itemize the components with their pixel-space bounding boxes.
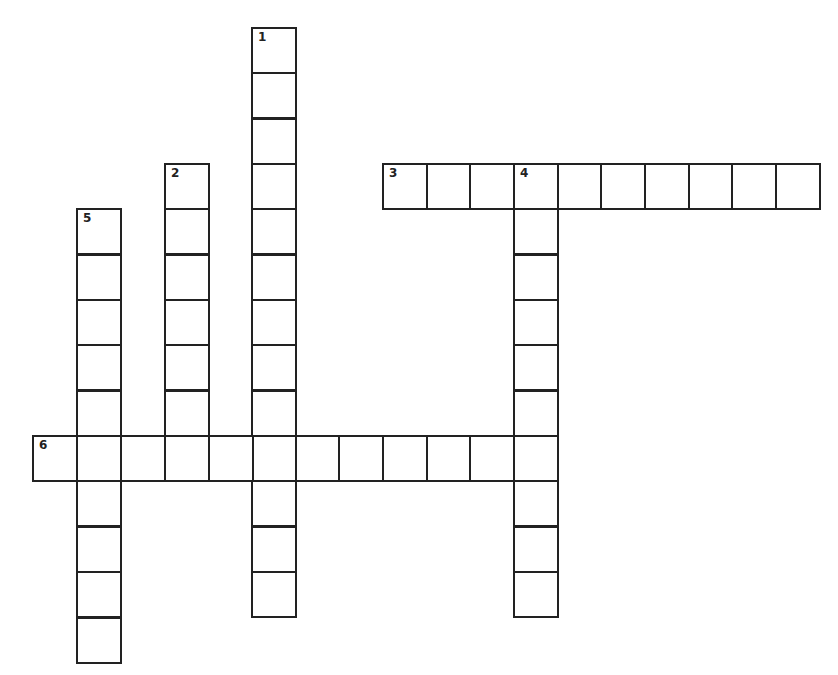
clue-number: 2 bbox=[171, 167, 179, 179]
crossword-cell[interactable] bbox=[251, 72, 297, 119]
clue-number: 5 bbox=[83, 212, 91, 224]
crossword-cell[interactable] bbox=[775, 163, 821, 210]
crossword-cell[interactable] bbox=[557, 163, 603, 210]
crossword-cell[interactable] bbox=[251, 571, 297, 618]
crossword-cell[interactable] bbox=[513, 208, 559, 255]
crossword-cell[interactable] bbox=[251, 163, 297, 210]
crossword-cell[interactable] bbox=[164, 344, 210, 391]
crossword-cell[interactable]: 4 bbox=[513, 163, 559, 210]
crossword-cell[interactable] bbox=[600, 163, 646, 210]
crossword-cell[interactable] bbox=[338, 435, 384, 482]
crossword-cell[interactable] bbox=[120, 435, 166, 482]
crossword-cell[interactable] bbox=[164, 435, 210, 482]
crossword-cell[interactable] bbox=[426, 435, 472, 482]
crossword-cell[interactable] bbox=[208, 435, 254, 482]
crossword-cell[interactable] bbox=[731, 163, 777, 210]
crossword-cell[interactable] bbox=[251, 344, 297, 391]
crossword-cell[interactable] bbox=[251, 254, 297, 301]
crossword-cell[interactable] bbox=[644, 163, 690, 210]
crossword-cell[interactable] bbox=[469, 435, 515, 482]
crossword-cell[interactable] bbox=[426, 163, 472, 210]
crossword-cell[interactable] bbox=[76, 254, 122, 301]
crossword-cell[interactable] bbox=[295, 435, 341, 482]
crossword-cell[interactable] bbox=[76, 435, 122, 482]
crossword-cell[interactable] bbox=[76, 617, 122, 664]
crossword-cell[interactable] bbox=[513, 344, 559, 391]
crossword-cell[interactable] bbox=[164, 390, 210, 437]
crossword-cell[interactable]: 3 bbox=[382, 163, 428, 210]
crossword-cell[interactable]: 1 bbox=[251, 27, 297, 74]
clue-number: 1 bbox=[258, 31, 266, 43]
crossword-cell[interactable]: 6 bbox=[32, 435, 78, 482]
crossword-cell[interactable] bbox=[513, 435, 559, 482]
crossword-cell[interactable] bbox=[251, 390, 297, 437]
crossword-cell[interactable] bbox=[76, 526, 122, 573]
crossword-cell[interactable] bbox=[76, 344, 122, 391]
clue-number: 3 bbox=[389, 167, 397, 179]
crossword-cell[interactable] bbox=[513, 526, 559, 573]
crossword-cell[interactable] bbox=[76, 390, 122, 437]
crossword-cell[interactable] bbox=[382, 435, 428, 482]
crossword-cell[interactable] bbox=[513, 390, 559, 437]
clue-number: 4 bbox=[520, 167, 528, 179]
crossword-cell[interactable] bbox=[251, 299, 297, 346]
crossword-cell[interactable] bbox=[76, 571, 122, 618]
crossword-cell[interactable] bbox=[164, 208, 210, 255]
crossword-cell[interactable] bbox=[688, 163, 734, 210]
crossword-cell[interactable] bbox=[76, 299, 122, 346]
crossword-cell[interactable] bbox=[251, 435, 297, 482]
crossword-cell[interactable] bbox=[469, 163, 515, 210]
crossword-cell[interactable] bbox=[164, 299, 210, 346]
crossword-cell[interactable] bbox=[251, 118, 297, 165]
crossword-cell[interactable] bbox=[251, 526, 297, 573]
crossword-cell[interactable] bbox=[513, 299, 559, 346]
crossword-cell[interactable] bbox=[251, 208, 297, 255]
crossword-cell[interactable] bbox=[76, 480, 122, 527]
crossword-grid: 123456 bbox=[0, 0, 838, 675]
crossword-cell[interactable] bbox=[513, 571, 559, 618]
clue-number: 6 bbox=[39, 439, 47, 451]
crossword-cell[interactable] bbox=[513, 480, 559, 527]
crossword-cell[interactable] bbox=[513, 254, 559, 301]
crossword-cell[interactable] bbox=[251, 480, 297, 527]
crossword-cell[interactable]: 5 bbox=[76, 208, 122, 255]
crossword-cell[interactable] bbox=[164, 254, 210, 301]
crossword-cell[interactable]: 2 bbox=[164, 163, 210, 210]
